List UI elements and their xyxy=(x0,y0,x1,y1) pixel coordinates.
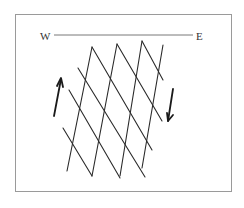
steep-line-3 xyxy=(120,41,142,176)
diagonal-fracture-lines xyxy=(63,41,163,178)
steep-line-4 xyxy=(142,45,163,168)
down-arrow-icon xyxy=(167,89,173,121)
up-arrow-icon xyxy=(54,78,63,116)
fracture-diagram xyxy=(0,0,244,208)
diagonal-line-1 xyxy=(92,47,152,150)
steep-fracture-lines xyxy=(67,41,163,176)
steep-line-2 xyxy=(92,44,117,176)
